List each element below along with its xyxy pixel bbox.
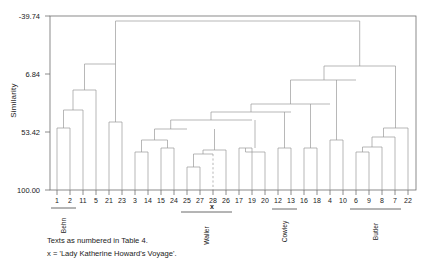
caption-line-1: Texts as numbered in Table 4.	[47, 236, 148, 245]
dendrogram-tree	[57, 21, 408, 190]
x-marker-icon: x	[210, 203, 214, 210]
y-axis-ticks	[45, 16, 50, 190]
y-tick-label: 6.84	[0, 70, 40, 79]
group-label-cowley: Cowley	[281, 209, 288, 255]
y-tick-label: 100.00	[0, 186, 40, 195]
x-axis-ticks	[57, 190, 408, 195]
group-label-waller: Waller	[203, 213, 210, 259]
group-label-butler: Butler	[372, 209, 379, 255]
caption-line-2: x = 'Lady Katherine Howard's Voyage'.	[47, 249, 177, 258]
y-tick-label: 53.42	[0, 128, 40, 137]
x-tick-label: 22	[400, 197, 416, 204]
y-tick-label: -39.74	[0, 12, 40, 21]
plot-frame	[50, 16, 416, 190]
